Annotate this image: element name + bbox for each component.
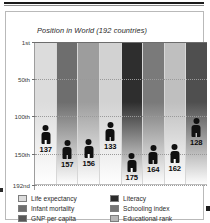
legend-item-label: Educational rank	[123, 215, 172, 222]
human-figure-icon	[149, 145, 158, 164]
bar-value-label: 175	[125, 173, 138, 182]
left-edge-mark	[0, 188, 3, 192]
human-figure-icon	[170, 144, 179, 163]
figure-legs-icon	[66, 155, 68, 159]
figure-legs-icon	[131, 168, 133, 172]
bar-value-label: 133	[104, 142, 117, 151]
gridline	[35, 154, 207, 155]
legend-item-label: Literacy	[123, 195, 146, 202]
legend-swatch-icon	[110, 195, 119, 202]
legend-item-label: Life expectancy	[31, 195, 77, 202]
legend-swatch-icon	[110, 205, 119, 212]
legend-item: Life expectancy	[18, 193, 110, 203]
top-rule-divider-secondary	[4, 5, 204, 6]
human-figure-icon	[84, 139, 93, 158]
figure-head-icon	[43, 125, 49, 131]
figure-legs-icon	[195, 133, 197, 137]
legend-item: Literacy	[110, 193, 204, 203]
human-figure-icon	[192, 118, 201, 137]
human-figure-icon	[127, 153, 136, 172]
figure-body-icon	[170, 151, 179, 163]
legend-item: Educational rank	[110, 213, 204, 223]
gridline	[35, 79, 207, 80]
figure-legs-icon	[174, 159, 176, 163]
legend-swatch-icon	[18, 215, 27, 222]
y-axis-label: 50th	[18, 75, 30, 82]
y-axis-tick	[32, 42, 35, 43]
legend-swatch-icon	[110, 215, 119, 222]
corner-mark	[206, 206, 210, 211]
legend-item-label: GNP per capita	[31, 215, 76, 222]
chart-title: Position in World (192 countries)	[37, 26, 147, 35]
plot-area: 137157156133175164162128	[35, 42, 207, 185]
y-axis-tick	[32, 185, 35, 186]
figure-body-icon	[63, 147, 72, 159]
human-figure-icon	[63, 140, 72, 159]
figure-body-icon	[127, 160, 136, 172]
figure-body-icon	[149, 152, 158, 164]
bar-value-label: 157	[61, 160, 74, 169]
axis-top-line	[33, 42, 207, 43]
gridline	[35, 116, 207, 117]
legend-item: GNP per capita	[18, 213, 110, 223]
figure-body-icon	[192, 125, 201, 137]
bar-column-fill	[186, 42, 207, 185]
y-axis-tick	[32, 116, 35, 117]
chart-page: Position in World (192 countries) 137157…	[0, 0, 210, 223]
figure-head-icon	[172, 144, 178, 150]
human-figure-icon	[41, 125, 50, 144]
y-axis-label: 150th	[15, 150, 30, 157]
legend-item-label: Infant mortality	[31, 205, 74, 212]
y-axis-label: 192nd	[13, 182, 30, 189]
figure-legs-icon	[152, 160, 154, 164]
human-figure-icon	[106, 122, 115, 141]
figure-head-icon	[129, 153, 135, 159]
bar-value-label: 164	[147, 165, 160, 174]
bar-value-label: 128	[190, 138, 203, 147]
figure-body-icon	[84, 146, 93, 158]
figure-body-icon	[41, 132, 50, 144]
figure-legs-icon	[88, 154, 90, 158]
y-axis-tick	[32, 154, 35, 155]
y-axis-label: 100th	[15, 113, 30, 120]
bar-column	[100, 42, 122, 185]
axis-bottom-line	[35, 184, 207, 185]
bar-column	[35, 42, 57, 185]
legend-swatch-icon	[18, 195, 27, 202]
legend-item: Schooling index	[110, 203, 204, 213]
bar-value-label: 162	[168, 164, 181, 173]
top-rule-divider	[4, 2, 204, 4]
gridline	[35, 185, 207, 186]
legend-item: Infant mortality	[18, 203, 110, 213]
y-axis-label: 1st	[22, 39, 30, 46]
figure-body-icon	[106, 129, 115, 141]
figure-head-icon	[107, 122, 113, 128]
bar-value-label: 137	[39, 145, 52, 154]
bar-column-fill	[100, 42, 121, 185]
bar-column-fill	[35, 42, 56, 185]
bar-column	[186, 42, 207, 185]
legend-item-label: Schooling index	[123, 205, 170, 212]
chart-legend: Life expectancyLiteracyInfant mortalityS…	[18, 193, 204, 223]
figure-head-icon	[64, 140, 70, 146]
y-axis-tick	[32, 79, 35, 80]
figure-legs-icon	[45, 140, 47, 144]
legend-swatch-icon	[18, 205, 27, 212]
figure-head-icon	[193, 118, 199, 124]
figure-legs-icon	[109, 137, 111, 141]
figure-head-icon	[86, 139, 92, 145]
bar-value-label: 156	[82, 159, 95, 168]
figure-head-icon	[150, 145, 156, 151]
chart-panel: Position in World (192 countries) 137157…	[5, 11, 204, 220]
